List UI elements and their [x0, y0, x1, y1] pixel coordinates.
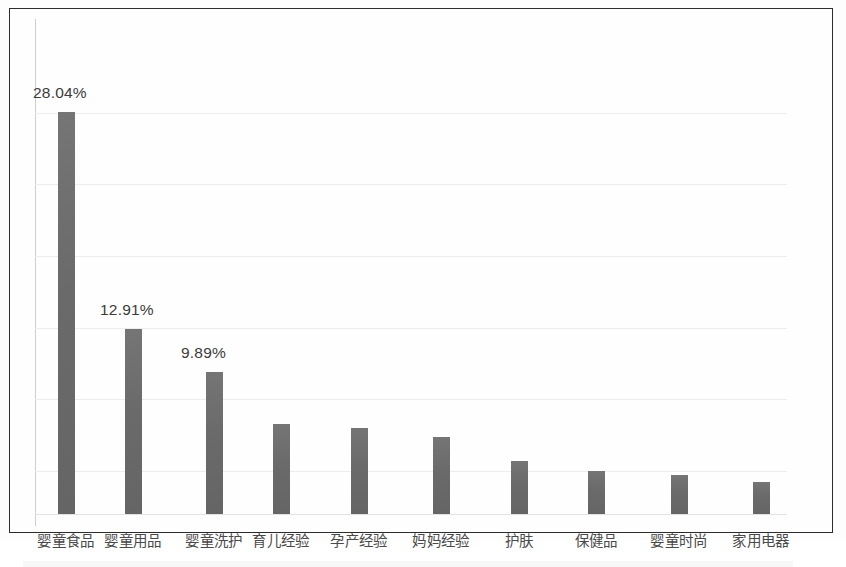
figure-frame: 28.04%12.91%9.89% 婴童食品婴童用品婴童洗护育儿经验孕产经验妈妈…	[9, 8, 833, 533]
category-label-4: 育儿经验	[236, 529, 326, 550]
gridline-5	[35, 471, 787, 472]
bar-2[interactable]	[125, 329, 142, 514]
plot-area: 28.04%12.91%9.89% 婴童食品婴童用品婴童洗护育儿经验孕产经验妈妈…	[21, 19, 841, 540]
category-label-8: 保健品	[551, 529, 641, 550]
bar-8[interactable]	[588, 471, 605, 514]
bar-1[interactable]	[58, 112, 75, 514]
bar-value-label-3: 9.89%	[181, 344, 226, 362]
gridline-4	[35, 399, 787, 400]
bar-value-label-2: 12.91%	[100, 301, 154, 319]
bar-value-label-1: 28.04%	[33, 84, 87, 102]
bar-10[interactable]	[753, 482, 770, 514]
bar-5[interactable]	[351, 428, 368, 514]
bar-7[interactable]	[511, 461, 528, 514]
x-axis-baseline	[35, 514, 787, 515]
gridline-1	[35, 184, 787, 185]
category-label-10: 家用电器	[716, 529, 806, 550]
bar-3[interactable]	[206, 372, 223, 514]
category-label-5: 孕产经验	[314, 529, 404, 550]
gridline-2	[35, 256, 787, 257]
gridline-3	[35, 328, 787, 329]
bar-9[interactable]	[671, 475, 688, 514]
gridline-0	[35, 113, 787, 114]
bar-4[interactable]	[273, 424, 290, 514]
category-label-6: 妈妈经验	[396, 529, 486, 550]
scan-artifact-band	[23, 561, 793, 567]
bar-6[interactable]	[433, 437, 450, 514]
category-label-9: 婴童时尚	[634, 529, 724, 550]
category-label-2: 婴童用品	[88, 529, 178, 550]
